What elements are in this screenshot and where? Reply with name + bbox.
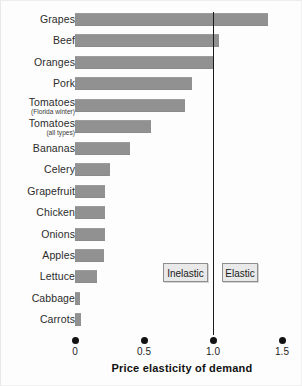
x-axis-tick-label: 0 [72, 346, 78, 357]
chart-row: Tomatoes(all types) [0, 120, 302, 133]
chart-row: Onions [0, 228, 302, 241]
unit-elasticity-reference-line [213, 12, 214, 335]
category-label: Tomatoes(all types) [29, 118, 75, 136]
category-label: Oranges [34, 57, 75, 68]
category-label: Grapes [40, 14, 75, 25]
chart-row: Beef [0, 34, 302, 47]
chart-row: Cabbage [0, 292, 302, 305]
chart-row: Chicken [0, 206, 302, 219]
value-bar [75, 142, 130, 155]
category-sublabel-text: (Florida winter) [29, 108, 75, 115]
value-bar [75, 206, 105, 219]
category-label: Apples [42, 250, 75, 261]
category-label-text: Celery [44, 163, 75, 175]
value-bar [75, 270, 97, 283]
value-bar [75, 185, 105, 198]
category-label: Cabbage [32, 293, 75, 304]
value-bar [75, 163, 110, 176]
value-bar [75, 99, 185, 112]
annotation-elastic: Elastic [222, 263, 258, 282]
chart-row: Celery [0, 163, 302, 176]
category-label-text: Apples [42, 249, 75, 261]
category-label-text: Oranges [34, 56, 75, 68]
x-axis-tick-label: 0.5 [137, 346, 151, 357]
category-sublabel-text: (all types) [29, 129, 75, 136]
value-bar [75, 56, 213, 69]
chart-row: Bananas [0, 142, 302, 155]
category-label-text: Pork [53, 77, 75, 89]
category-label-text: Grapes [40, 13, 75, 25]
value-bar [75, 313, 81, 326]
value-bar [75, 34, 219, 47]
chart-row: Apples [0, 249, 302, 262]
value-bar [75, 228, 105, 241]
category-label: Grapefruit [27, 186, 75, 197]
category-label: Chicken [36, 207, 75, 218]
value-bar [75, 249, 104, 262]
category-label-text: Carrots [40, 313, 75, 325]
chart-row: Pork [0, 77, 302, 90]
x-axis-title: Price elasticity of demand [0, 362, 302, 374]
price-elasticity-chart-figure: GrapesBeefOrangesPorkTomatoes(Florida wi… [0, 0, 302, 386]
x-axis-tick-label: 1.0 [206, 346, 220, 357]
x-axis-tick-label: 1.5 [275, 346, 289, 357]
category-label-text: Grapefruit [27, 185, 75, 197]
category-label: Carrots [40, 314, 75, 325]
chart-row: Grapes [0, 13, 302, 26]
category-label: Lettuce [40, 271, 75, 282]
category-label: Onions [41, 229, 75, 240]
category-label-text: Beef [53, 34, 75, 46]
category-label: Tomatoes(Florida winter) [29, 97, 75, 115]
category-label-text: Tomatoes [29, 117, 75, 129]
chart-row: Oranges [0, 56, 302, 69]
annotation-inelastic: Inelastic [163, 263, 208, 282]
category-label-text: Cabbage [32, 292, 75, 304]
x-axis-tick-marker [141, 337, 148, 344]
category-label-text: Onions [41, 228, 75, 240]
category-label-text: Bananas [33, 142, 75, 154]
value-bar [75, 77, 192, 90]
category-label: Beef [53, 35, 75, 46]
chart-row: Grapefruit [0, 185, 302, 198]
annotation-inelastic-label: Inelastic [167, 268, 204, 279]
category-label: Celery [44, 164, 75, 175]
category-label-text: Chicken [36, 206, 75, 218]
category-label: Bananas [33, 143, 75, 154]
value-bar [75, 13, 268, 26]
chart-row: Tomatoes(Florida winter) [0, 99, 302, 112]
value-bar [75, 292, 80, 305]
category-label-text: Lettuce [40, 270, 75, 282]
category-label: Pork [53, 78, 75, 89]
x-axis-tick-marker [72, 337, 79, 344]
chart-plot-area: GrapesBeefOrangesPorkTomatoes(Florida wi… [0, 0, 302, 386]
x-axis-tick-marker [210, 337, 217, 344]
category-label-text: Tomatoes [29, 96, 75, 108]
annotation-elastic-label: Elastic [225, 268, 254, 279]
value-bar [75, 120, 151, 133]
chart-row: Carrots [0, 313, 302, 326]
x-axis-tick-marker [279, 337, 286, 344]
